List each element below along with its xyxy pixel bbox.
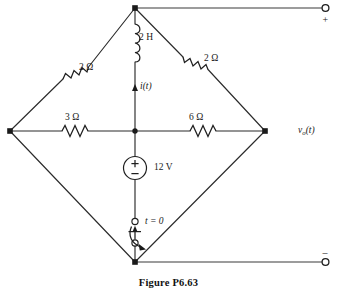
output-terminal-negative-sign: – (323, 248, 328, 258)
resistor-2ohm-upper-right-label: 2 Ω (204, 54, 218, 64)
inductor-2h-body (135, 24, 140, 62)
wire-upperright-resistor-to-right (208, 70, 265, 132)
output-terminal-negative-icon[interactable] (322, 259, 329, 266)
resistor-6ohm-body (190, 126, 216, 137)
node-center (132, 128, 137, 133)
node-top (132, 5, 138, 11)
voltage-source-12v-circle (124, 157, 147, 180)
resistor-3ohm-body (62, 126, 88, 137)
wire-left-to-upperleft-resistor (10, 79, 63, 131)
node-bottom (132, 259, 138, 265)
wire-upperleft-resistor-to-top (89, 8, 136, 67)
wire-left-to-bottom (10, 131, 135, 262)
switch-t0-label: t = 0 (145, 217, 164, 227)
switch-blade-arrowhead-icon (133, 226, 138, 232)
output-voltage-vo-of-t-label: vo(t) (298, 126, 315, 136)
circuit-figure: 2 H 2 Ω 2 Ω 3 Ω 6 Ω 12 V i(t) t = 0 vo(t… (0, 0, 337, 294)
output-terminal-positive-sign: + (323, 15, 329, 25)
vo-label-tail: (t) (306, 125, 315, 135)
figure-caption: Figure P6.63 (0, 277, 337, 288)
inductor-2h-label: 2 H (139, 33, 153, 43)
current-i-of-t-label: i(t) (140, 82, 152, 92)
node-right (262, 128, 268, 134)
output-terminal-positive-icon[interactable] (322, 5, 329, 12)
switch-terminal-upper-icon (132, 218, 138, 224)
switch-action-arrowhead-icon (139, 244, 147, 251)
resistor-2ohm-upper-left-label: 2 Ω (79, 63, 93, 73)
node-left (7, 128, 13, 134)
resistor-6ohm-label: 6 Ω (189, 113, 203, 123)
resistor-3ohm-label: 3 Ω (65, 113, 79, 123)
circuit-schematic-canvas (0, 0, 337, 294)
wire-bottom-to-right (135, 131, 265, 262)
voltage-source-12v-label: 12 V (154, 163, 173, 173)
current-arrowhead-icon (132, 84, 138, 91)
